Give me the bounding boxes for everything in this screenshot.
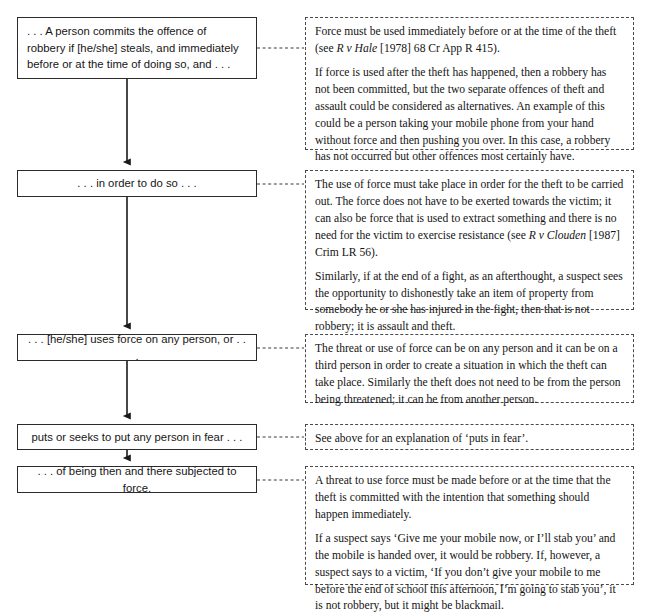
- flow-box-step-3[interactable]: . . . [he/she] uses force on any person,…: [17, 334, 257, 361]
- note-panel-5: A threat to use force must be made befor…: [305, 466, 634, 585]
- note-paragraph: Similarly, if at the end of a fight, as …: [315, 269, 624, 337]
- note-paragraph: If force is used after the theft has hap…: [315, 65, 624, 167]
- note-panel-1: Force must be used immediately before or…: [305, 17, 634, 150]
- flow-box-step-5-label: . . . of being then and there subjected …: [27, 463, 247, 496]
- note-paragraph: A threat to use force must be made befor…: [315, 473, 624, 524]
- flow-box-step-3-label: . . . [he/she] uses force on any person,…: [27, 331, 247, 364]
- flow-box-step-1-label: . . . A person commits the offence of ro…: [27, 23, 247, 73]
- note-panel-2: The use of force must take place in orde…: [305, 170, 634, 310]
- flow-box-step-4[interactable]: puts or seeks to put any person in fear …: [17, 424, 257, 450]
- note-paragraph: The use of force must take place in orde…: [315, 177, 624, 262]
- flow-box-step-2-label: . . . in order to do so . . .: [27, 175, 247, 192]
- note-panel-3: The threat or use of force can be on any…: [305, 334, 634, 403]
- flow-box-step-4-label: puts or seeks to put any person in fear …: [27, 429, 247, 446]
- flow-box-step-5[interactable]: . . . of being then and there subjected …: [17, 466, 257, 493]
- flow-box-step-1[interactable]: . . . A person commits the offence of ro…: [17, 17, 257, 79]
- note-paragraph: The threat or use of force can be on any…: [315, 341, 624, 409]
- flow-box-step-2[interactable]: . . . in order to do so . . .: [17, 170, 257, 197]
- note-paragraph: See above for an explanation of ‘puts in…: [315, 431, 624, 448]
- note-paragraph: If a suspect says ‘Give me your mobile n…: [315, 531, 624, 615]
- note-panel-4: See above for an explanation of ‘puts in…: [305, 424, 634, 450]
- note-paragraph: Force must be used immediately before or…: [315, 24, 624, 58]
